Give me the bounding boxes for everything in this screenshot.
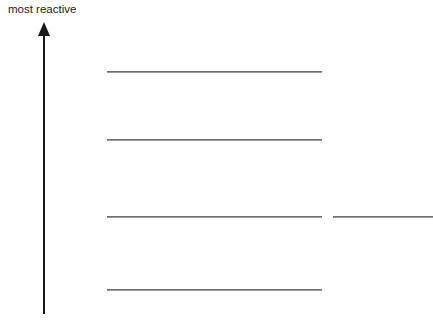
side-energy-level: [333, 216, 433, 218]
energy-level-3: [107, 216, 322, 218]
energy-level-1: [107, 71, 322, 73]
reactivity-axis-arrow: [43, 34, 45, 314]
energy-level-4: [107, 289, 322, 291]
axis-label: most reactive: [8, 3, 76, 15]
energy-level-2: [107, 139, 322, 141]
